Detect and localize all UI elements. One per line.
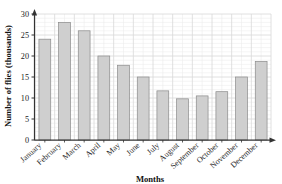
x-axis-title: Months [136,174,165,184]
chart-canvas: 051015202530 JanuaryFebruaryMarchAprilMa… [0,0,282,184]
y-tick-label: 15 [21,73,29,82]
y-axis-title: Number of flies (thousands) [3,25,13,127]
bar-august [177,99,189,140]
bar-may [118,65,130,140]
bar-march [78,31,90,140]
bar-july [157,91,169,140]
bar-october [216,92,228,140]
y-tick-label: 5 [25,115,29,124]
y-tick-label: 20 [21,52,29,61]
bar-december [255,61,267,140]
y-tick-label: 10 [21,94,29,103]
bar-november [236,77,248,140]
y-tick-label: 30 [21,10,29,19]
bar-june [137,77,149,140]
bar-february [59,22,71,140]
bar-chart: 051015202530 JanuaryFebruaryMarchAprilMa… [0,0,282,184]
y-tick-label: 0 [25,136,29,145]
bar-january [39,39,51,140]
bar-april [98,56,110,140]
bar-september [196,96,208,140]
y-tick-label: 25 [21,31,29,40]
